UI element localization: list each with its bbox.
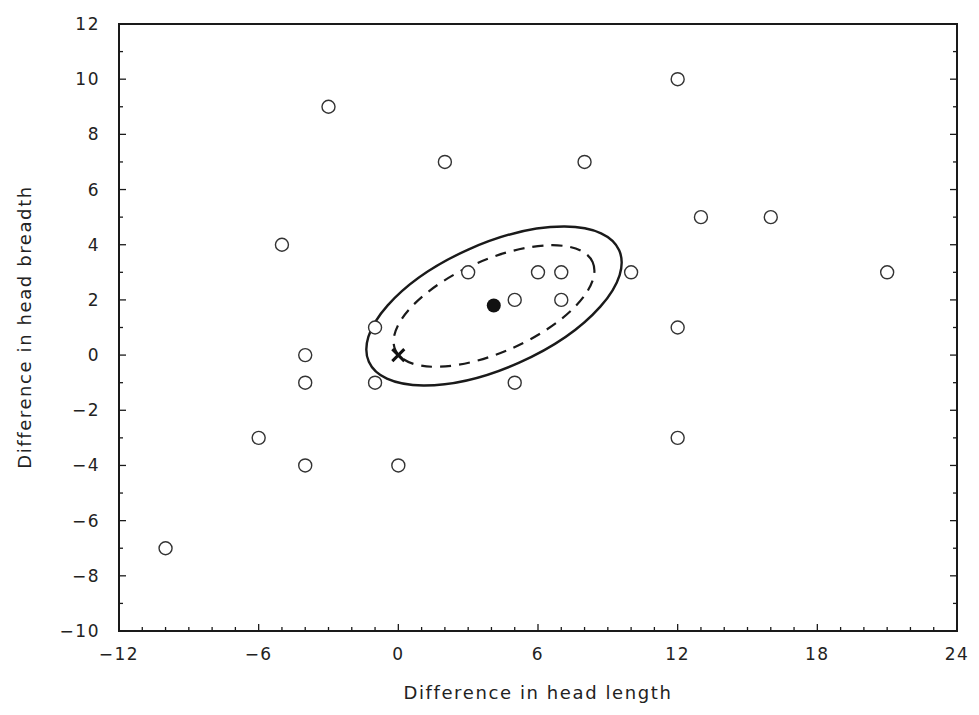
open-circle-marker	[764, 211, 777, 224]
y-tick-label: 6	[88, 180, 100, 200]
x-tick-label: −6	[245, 644, 273, 664]
x-tick-labels: −12−606121824	[99, 644, 970, 664]
x-tick-label: 18	[805, 644, 830, 664]
open-circle-marker	[555, 293, 568, 306]
open-circle-marker	[299, 349, 312, 362]
y-axis-title: Difference in head breadth	[14, 185, 35, 469]
y-tick-label: 8	[88, 124, 100, 144]
open-circle-marker	[532, 266, 545, 279]
x-tick-label: 24	[945, 644, 970, 664]
open-circle-marker	[694, 211, 707, 224]
open-circle-marker	[881, 266, 894, 279]
open-circle-marker	[671, 431, 684, 444]
y-tick-label: −8	[72, 566, 100, 586]
y-tick-labels: 121086420−2−4−6−8−10	[60, 14, 100, 641]
x-tick-label: 6	[532, 644, 544, 664]
x-tick-label: 12	[665, 644, 690, 664]
mean-filled-marker	[487, 298, 501, 312]
open-circle-marker	[462, 266, 475, 279]
y-tick-label: 12	[75, 14, 100, 34]
open-circle-marker	[578, 155, 591, 168]
open-circle-marker	[322, 100, 335, 113]
open-circle-marker	[299, 376, 312, 389]
open-circle-marker	[392, 459, 405, 472]
y-tick-label: 2	[88, 290, 100, 310]
open-circle-marker	[299, 459, 312, 472]
open-circle-marker	[369, 376, 382, 389]
y-tick-label: −4	[72, 455, 100, 475]
open-circle-marker	[159, 542, 172, 555]
open-circle-marker	[252, 431, 265, 444]
y-tick-label: −10	[60, 621, 100, 641]
open-circle-marker	[671, 73, 684, 86]
x-axis-title: Difference in head length	[404, 682, 673, 703]
open-circle-marker	[508, 376, 521, 389]
scatter-chart: −12−606121824 121086420−2−4−6−8−10 Diffe…	[0, 0, 979, 715]
open-circle-marker	[275, 238, 288, 251]
y-tick-label: 0	[88, 345, 100, 365]
cross-marker	[392, 349, 404, 361]
plot-frame	[119, 24, 957, 631]
axis-ticks	[119, 24, 957, 631]
y-tick-label: 10	[75, 69, 100, 89]
open-circle-marker	[369, 321, 382, 334]
open-circle-marker	[438, 155, 451, 168]
y-tick-label: 4	[88, 235, 100, 255]
y-tick-label: −6	[72, 511, 100, 531]
open-circle-marker	[508, 293, 521, 306]
open-circle-marker	[555, 266, 568, 279]
x-tick-label: −12	[99, 644, 139, 664]
data-points	[159, 73, 894, 555]
y-tick-label: −2	[72, 400, 100, 420]
open-circle-marker	[671, 321, 684, 334]
x-tick-label: 0	[392, 644, 404, 664]
open-circle-marker	[625, 266, 638, 279]
